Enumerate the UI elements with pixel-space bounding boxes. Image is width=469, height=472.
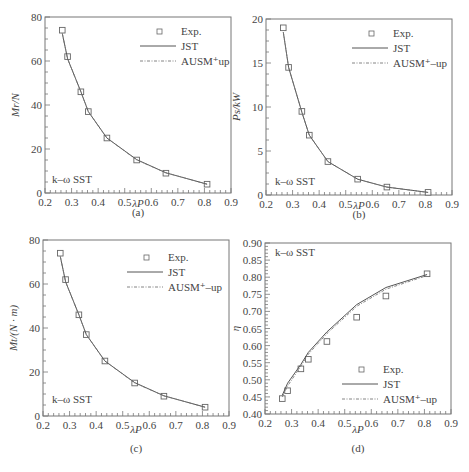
chart-panel-d: 0.20.30.40.50.60.70.80.90.400.450.500.55… bbox=[229, 237, 458, 455]
chart-panel-a: 0.20.30.40.50.60.70.80.9020406080λPMr/N(… bbox=[9, 11, 238, 219]
y-tick-label: 0.45 bbox=[243, 391, 263, 403]
x-axis-label: λP bbox=[129, 423, 142, 435]
chart-panel-c: 0.20.30.40.50.60.70.80.9020406080λPMt/(N… bbox=[7, 234, 236, 455]
panel-label: (c) bbox=[130, 442, 143, 455]
exp-data-marker bbox=[383, 293, 389, 299]
legend-exp-label: Exp. bbox=[181, 25, 202, 37]
y-tick-label: 0.70 bbox=[243, 305, 263, 317]
x-tick-label: 0.5 bbox=[339, 198, 353, 210]
x-tick-label: 0.4 bbox=[312, 198, 326, 210]
x-tick-label: 0.6 bbox=[365, 198, 379, 210]
model-annotation: k–ω SST bbox=[52, 173, 92, 185]
y-tick-label: 5 bbox=[258, 145, 264, 157]
x-tick-label: 0.4 bbox=[89, 419, 103, 431]
y-tick-label: 0.75 bbox=[243, 288, 263, 300]
legend-exp-label: Exp. bbox=[383, 363, 404, 375]
x-tick-label: 0.9 bbox=[445, 198, 459, 210]
exp-data-marker bbox=[57, 250, 63, 256]
y-tick-label: 20 bbox=[31, 143, 43, 155]
exp-data-marker bbox=[324, 339, 330, 345]
legend-ausm-label: AUSM⁺up bbox=[181, 55, 230, 67]
x-tick-label: 0.7 bbox=[169, 419, 183, 431]
x-tick-label: 0.7 bbox=[171, 196, 185, 208]
x-tick-label: 0.4 bbox=[91, 196, 105, 208]
y-tick-label: 0.60 bbox=[243, 340, 263, 352]
figure-canvas: 0.20.30.40.50.60.70.80.9020406080λPMr/N(… bbox=[0, 0, 469, 472]
x-tick-label: 0.6 bbox=[142, 419, 156, 431]
y-tick-label: 20 bbox=[29, 366, 41, 378]
exp-data-marker bbox=[59, 27, 65, 33]
x-tick-label: 0.5 bbox=[338, 417, 352, 429]
legend-ausm-label: AUSM⁺–up bbox=[383, 393, 438, 405]
legend-exp-label: Exp. bbox=[168, 251, 189, 263]
y-axis-label: Ps/kW bbox=[230, 92, 242, 122]
x-tick-label: 0.3 bbox=[286, 198, 300, 210]
y-tick-label: 0.55 bbox=[243, 357, 263, 369]
x-tick-label: 0.8 bbox=[196, 419, 210, 431]
plot-frame bbox=[266, 19, 452, 195]
legend-jst-label: JST bbox=[383, 378, 400, 390]
plot-frame bbox=[265, 243, 451, 414]
model-annotation: k–ω SST bbox=[275, 175, 315, 187]
y-tick-label: 0.40 bbox=[243, 408, 263, 420]
y-tick-label: 0.90 bbox=[243, 237, 263, 249]
y-tick-label: 0.80 bbox=[243, 271, 263, 283]
y-tick-label: 15 bbox=[252, 57, 264, 69]
x-tick-label: 0.6 bbox=[364, 417, 378, 429]
x-tick-label: 0.5 bbox=[118, 196, 132, 208]
y-tick-label: 10 bbox=[252, 101, 264, 113]
y-axis-label: Mr/N bbox=[9, 92, 21, 118]
y-tick-label: 20 bbox=[252, 13, 264, 25]
legend-exp-label: Exp. bbox=[393, 27, 414, 39]
x-tick-label: 0.3 bbox=[65, 196, 79, 208]
x-tick-label: 0.7 bbox=[392, 198, 406, 210]
y-axis-label: Mt/(N · m) bbox=[7, 305, 20, 352]
legend-jst-label: JST bbox=[168, 266, 185, 278]
y-tick-label: 0 bbox=[258, 189, 264, 201]
legend: Exp.JSTAUSM⁺up bbox=[140, 25, 230, 67]
model-annotation: k–ω SST bbox=[52, 393, 92, 405]
plot-frame bbox=[43, 240, 229, 416]
x-tick-label: 0.9 bbox=[224, 196, 238, 208]
y-tick-label: 0 bbox=[37, 187, 43, 199]
panel-label: (d) bbox=[352, 442, 365, 455]
x-tick-label: 0.3 bbox=[285, 417, 299, 429]
x-tick-label: 0.8 bbox=[419, 198, 433, 210]
legend-jst-label: JST bbox=[393, 42, 410, 54]
model-annotation: k–ω SST bbox=[275, 246, 315, 258]
y-tick-label: 0 bbox=[35, 410, 41, 422]
y-tick-label: 0.65 bbox=[243, 323, 263, 335]
y-tick-label: 80 bbox=[31, 11, 43, 23]
x-tick-label: 0.9 bbox=[222, 419, 236, 431]
y-tick-label: 80 bbox=[29, 234, 41, 246]
y-tick-label: 60 bbox=[29, 278, 41, 290]
x-tick-label: 0.6 bbox=[144, 196, 158, 208]
y-tick-label: 0.85 bbox=[243, 254, 263, 266]
y-tick-label: 40 bbox=[31, 99, 43, 111]
y-axis-label: η bbox=[229, 326, 241, 331]
panel-label: (a) bbox=[132, 206, 145, 219]
legend-jst-label: JST bbox=[181, 40, 198, 52]
legend: Exp.JSTAUSM⁺–up bbox=[352, 27, 448, 69]
jst-curve bbox=[282, 275, 427, 396]
x-tick-label: 0.9 bbox=[444, 417, 458, 429]
x-axis-label: λP bbox=[351, 423, 364, 435]
exp-data-marker bbox=[354, 314, 360, 320]
x-tick-label: 0.7 bbox=[391, 417, 405, 429]
y-tick-label: 0.50 bbox=[243, 374, 263, 386]
y-tick-label: 40 bbox=[29, 322, 41, 334]
x-tick-label: 0.8 bbox=[198, 196, 212, 208]
legend-exp-marker bbox=[144, 255, 149, 260]
ausm-curve bbox=[282, 276, 427, 397]
legend-exp-marker bbox=[369, 31, 374, 36]
legend-ausm-label: AUSM⁺–up bbox=[168, 281, 223, 293]
legend-exp-marker bbox=[157, 29, 162, 34]
x-tick-label: 0.8 bbox=[418, 417, 432, 429]
chart-panel-b: 0.20.30.40.50.60.70.80.905101520λPPs/kW(… bbox=[230, 13, 459, 221]
legend: Exp.JSTAUSM⁺–up bbox=[342, 363, 438, 405]
x-tick-label: 0.4 bbox=[311, 417, 325, 429]
plot-frame bbox=[45, 17, 231, 193]
x-tick-label: 0.3 bbox=[63, 419, 77, 431]
exp-data-marker bbox=[280, 25, 286, 31]
legend-ausm-label: AUSM⁺–up bbox=[393, 57, 448, 69]
